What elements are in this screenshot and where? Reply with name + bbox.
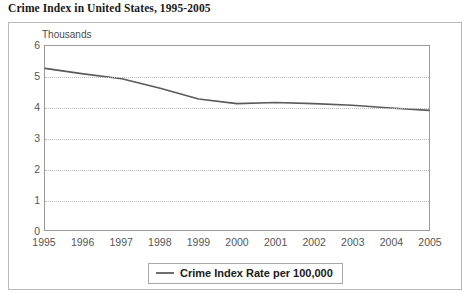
x-axis-tick-label: 2002 xyxy=(292,236,336,248)
gridline xyxy=(45,139,429,140)
x-axis-tick-label: 1997 xyxy=(99,236,143,248)
x-axis-tick-label: 1999 xyxy=(176,236,220,248)
chart-legend: Crime Index Rate per 100,000 xyxy=(148,263,343,284)
y-axis-tick-label: 6 xyxy=(14,39,40,51)
x-axis-tick-label: 2001 xyxy=(254,236,298,248)
gridline xyxy=(45,170,429,171)
x-axis-tick-label: 2005 xyxy=(408,236,452,248)
line-series-svg xyxy=(45,46,429,230)
x-axis-tick-label: 1995 xyxy=(22,236,66,248)
y-axis-tick-labels: 0123456 xyxy=(8,45,40,231)
crime-index-line xyxy=(45,68,429,110)
x-axis-tick-label: 1998 xyxy=(138,236,182,248)
y-axis-tick-label: 3 xyxy=(14,132,40,144)
y-axis-tick-label: 1 xyxy=(14,194,40,206)
y-axis-unit-label: Thousands xyxy=(42,29,91,40)
legend-line-swatch xyxy=(156,272,174,274)
page-title: Crime Index in United States, 1995-2005 xyxy=(8,2,211,14)
x-axis-tick-label: 2003 xyxy=(331,236,375,248)
gridline xyxy=(45,108,429,109)
x-axis-tick-label: 2004 xyxy=(369,236,413,248)
gridline xyxy=(45,201,429,202)
x-axis-tick-label: 1996 xyxy=(61,236,105,248)
legend-label: Crime Index Rate per 100,000 xyxy=(180,267,333,279)
gridline xyxy=(45,77,429,78)
y-axis-tick-label: 4 xyxy=(14,101,40,113)
y-axis-tick-label: 2 xyxy=(14,163,40,175)
x-axis-tick-labels: 1995199619971998199920002001200220032004… xyxy=(44,236,430,252)
plot-area xyxy=(44,45,430,231)
y-axis-tick-label: 5 xyxy=(14,70,40,82)
x-axis-tick-label: 2000 xyxy=(215,236,259,248)
